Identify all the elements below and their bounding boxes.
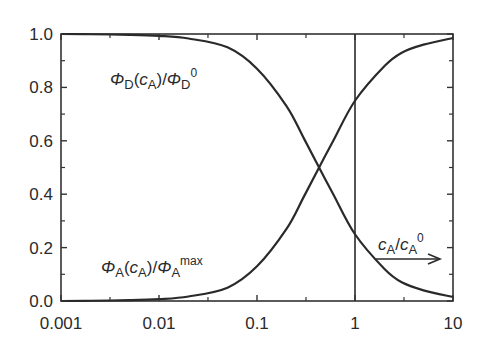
phi-a-label: ΦA(cA)/ΦAmax [101,254,203,280]
chart: 0.0010.010.1110 0.00.20.40.60.81.0 ΦD(cA… [0,0,483,354]
y-tick-label: 0.4 [29,185,53,204]
y-axis-ticks: 0.00.20.40.60.81.0 [29,25,453,311]
y-tick-label: 0.2 [29,239,53,258]
y-tick-label: 0.0 [29,292,53,311]
y-tick-label: 0.6 [29,132,53,151]
x-tick-label: 10 [444,314,463,333]
x-tick-label: 1 [350,314,359,333]
x-axis-ticks: 0.0010.010.1110 [40,34,463,333]
x-tick-label: 0.001 [40,314,83,333]
y-tick-label: 1.0 [29,25,53,44]
x-tick-label: 0.01 [142,314,175,333]
phi-d-label: ΦD(cA)/ΦD0 [110,66,197,92]
y-tick-label: 0.8 [29,78,53,97]
ca-ratio-label: cA/cA0 [378,231,424,257]
x-tick-label: 0.1 [245,314,269,333]
